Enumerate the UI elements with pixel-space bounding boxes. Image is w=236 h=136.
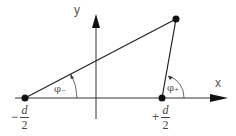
y-axis-arrow-icon	[92, 14, 100, 28]
right-point-numerator: d	[163, 104, 169, 116]
left-point-label: d 2	[20, 104, 29, 131]
right-point-sign: +	[152, 110, 159, 124]
x-axis-arrow-icon	[210, 94, 228, 102]
left-point-numerator: d	[22, 104, 28, 116]
point-right	[159, 95, 166, 102]
angle-label-minus: φ₋	[54, 83, 66, 94]
point-left	[22, 95, 29, 102]
angle-label-plus: φ₊	[167, 82, 179, 93]
right-point-label: d 2	[161, 104, 170, 131]
diagram-canvas	[0, 0, 236, 136]
x-axis-label: x	[215, 77, 221, 89]
left-point-sign: −	[11, 110, 18, 124]
left-point-denominator: 2	[22, 119, 28, 131]
right-point-denominator: 2	[163, 119, 169, 131]
side-left-apex	[25, 19, 176, 98]
point-apex	[173, 16, 180, 23]
y-axis-label: y	[74, 4, 80, 16]
